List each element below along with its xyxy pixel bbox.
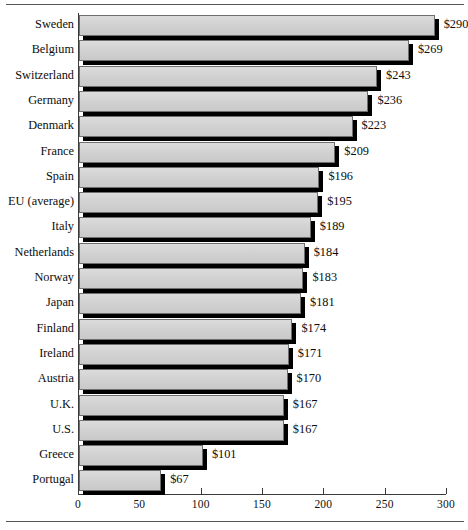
bar-row: EU (average)$195 (0, 191, 468, 216)
bar-row: Belgium$269 (0, 39, 468, 64)
bar-face (79, 116, 353, 137)
x-tick-label: 100 (192, 498, 210, 510)
bar-value-label: $189 (320, 219, 345, 234)
bar-face (79, 470, 161, 491)
bar-row: Spain$196 (0, 166, 468, 191)
bar-row: Germany$236 (0, 90, 468, 115)
bar-face (79, 344, 289, 365)
bar-value-label: $171 (298, 346, 323, 361)
category-label: Germany (28, 93, 74, 108)
category-label: France (41, 144, 74, 159)
bar-value-label: $67 (170, 472, 188, 487)
category-label: Finland (36, 321, 74, 336)
bar (79, 319, 292, 340)
bar (79, 192, 318, 213)
category-label: EU (average) (8, 194, 74, 209)
category-label: Ireland (39, 346, 74, 361)
bar-value-label: $183 (312, 270, 337, 285)
bar-row: Netherlands$184 (0, 242, 468, 267)
bar (79, 369, 288, 390)
bar-row: Portugal$67 (0, 469, 468, 494)
chart-page: 050100150200250300 Sweden$290Belgium$269… (0, 0, 468, 530)
category-label: Belgium (32, 42, 74, 57)
bar-value-label: $236 (377, 93, 402, 108)
bar-value-label: $170 (297, 371, 322, 386)
category-label: Switzerland (15, 68, 74, 83)
bar-value-label: $195 (327, 194, 352, 209)
bar-row: U.S.$167 (0, 419, 468, 444)
bar-face (79, 91, 368, 112)
category-label: Denmark (28, 118, 74, 133)
category-label: Netherlands (15, 245, 74, 260)
bar-row: France$209 (0, 141, 468, 166)
bar-face (79, 40, 409, 61)
bar-face (79, 395, 284, 416)
bar (79, 15, 435, 36)
category-label: U.S. (52, 422, 74, 437)
bar (79, 445, 203, 466)
bar (79, 293, 301, 314)
bar (79, 40, 409, 61)
bar (79, 268, 303, 289)
bar (79, 243, 305, 264)
bar-row: Switzerland$243 (0, 65, 468, 90)
category-label: Norway (34, 270, 74, 285)
bar-row: Japan$181 (0, 292, 468, 317)
category-label: Sweden (35, 17, 74, 32)
bar (79, 470, 161, 491)
bar-value-label: $223 (362, 118, 387, 133)
bar-row: U.K.$167 (0, 394, 468, 419)
bar-row: Denmark$223 (0, 115, 468, 140)
x-tick-label: 200 (314, 498, 332, 510)
bar (79, 344, 289, 365)
bar (79, 395, 284, 416)
bar-value-label: $181 (310, 295, 335, 310)
bar-face (79, 217, 311, 238)
bar-value-label: $167 (293, 397, 318, 412)
bar-face (79, 420, 284, 441)
x-tick-label: 0 (75, 498, 81, 510)
category-label: Japan (46, 295, 74, 310)
x-tick-label: 300 (437, 498, 455, 510)
category-label: Portugal (32, 472, 74, 487)
bar-face (79, 319, 292, 340)
bar-row: Austria$170 (0, 368, 468, 393)
category-label: Spain (46, 169, 74, 184)
category-label: Austria (38, 371, 74, 386)
bar-face (79, 192, 318, 213)
bar-face (79, 369, 288, 390)
bar-value-label: $196 (328, 169, 353, 184)
bar-value-label: $101 (212, 447, 237, 462)
bar-row: Greece$101 (0, 444, 468, 469)
bar-face (79, 243, 305, 264)
bar-row: Norway$183 (0, 267, 468, 292)
bar-value-label: $209 (344, 144, 369, 159)
x-tick-label: 50 (133, 498, 145, 510)
bar-face (79, 445, 203, 466)
bar (79, 66, 377, 87)
bar-value-label: $167 (293, 422, 318, 437)
x-tick-label: 250 (376, 498, 394, 510)
category-label: Italy (51, 219, 74, 234)
bar (79, 167, 319, 188)
bar-row: Ireland$171 (0, 343, 468, 368)
bar (79, 217, 311, 238)
bar-face (79, 142, 335, 163)
bar (79, 91, 368, 112)
bar (79, 420, 284, 441)
bar-face (79, 15, 435, 36)
category-label: U.K. (50, 397, 74, 412)
bar-value-label: $290 (444, 17, 468, 32)
bar-value-label: $243 (386, 68, 411, 83)
bar-row: Sweden$290 (0, 14, 468, 39)
bar-face (79, 268, 303, 289)
x-tick-label: 150 (253, 498, 271, 510)
bar (79, 116, 353, 137)
bar-row: Finland$174 (0, 318, 468, 343)
bar-row: Italy$189 (0, 216, 468, 241)
bar-face (79, 167, 319, 188)
bar-face (79, 66, 377, 87)
bar-value-label: $174 (301, 321, 326, 336)
bar-value-label: $184 (314, 245, 339, 260)
bar-chart-plot-area: 050100150200250300 Sweden$290Belgium$269… (0, 0, 468, 530)
